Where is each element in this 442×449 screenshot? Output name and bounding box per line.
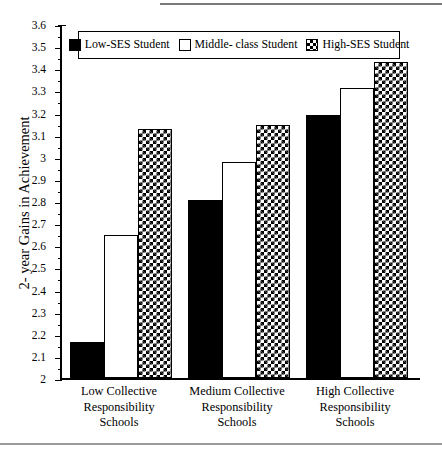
- bar-high-group-2: [256, 125, 290, 378]
- y-tick-label: 2.8: [32, 197, 46, 209]
- y-tick-major: 2.7: [55, 225, 62, 226]
- y-tick-major: 2.5: [55, 269, 62, 270]
- y-tick-minor: [58, 81, 62, 82]
- y-tick-minor: [58, 280, 62, 281]
- legend-item-3: High-SES Student: [306, 39, 409, 51]
- y-tick-minor: [58, 37, 62, 38]
- legend-item-1: Low-SES Student: [69, 39, 170, 51]
- page-rule-bottom: [0, 443, 442, 445]
- chart-legend: Low-SES StudentMiddle- class StudentHigh…: [78, 31, 400, 59]
- y-tick-minor: [58, 59, 62, 60]
- y-tick-minor: [58, 126, 62, 127]
- y-tick-major: 2.4: [55, 292, 62, 293]
- y-tick-minor: [58, 148, 62, 149]
- y-tick-minor: [58, 347, 62, 348]
- y-tick-major: 3.5: [55, 48, 62, 49]
- bar-high-group-3: [374, 62, 408, 378]
- plot-area: 3.63.53.43.33.23.132.92.82.72.62.52.42.3…: [60, 26, 418, 380]
- y-tick-major: 2: [55, 380, 62, 381]
- y-tick-label: 3.4: [32, 65, 46, 77]
- bar-high-group-1: [138, 129, 172, 378]
- y-tick-minor: [58, 192, 62, 193]
- white-outline-swatch: [179, 39, 191, 51]
- legend-label-1: Low-SES Student: [85, 39, 170, 51]
- y-tick-label: 2.6: [32, 242, 46, 254]
- y-tick-major: 3: [55, 159, 62, 160]
- y-tick-label: 2.4: [32, 286, 46, 298]
- y-tick-major: 2.8: [55, 203, 62, 204]
- legend-label-2: Middle- class Student: [195, 39, 298, 51]
- y-tick-major: 3.4: [55, 70, 62, 71]
- y-tick-label: 3.6: [32, 20, 46, 32]
- category-label-3: High Collective Responsibility Schools: [292, 384, 418, 431]
- bar-low-group-2: [188, 200, 222, 378]
- y-tick-minor: [58, 214, 62, 215]
- page-rule-top: [160, 3, 442, 5]
- y-tick-major: 2.9: [55, 181, 62, 182]
- y-tick-minor: [58, 103, 62, 104]
- y-tick-label: 2: [40, 374, 46, 386]
- y-tick-major: 3.1: [55, 137, 62, 138]
- category-label-2: Medium Collective Responsibility Schools: [174, 384, 300, 431]
- y-tick-major: 2.6: [55, 247, 62, 248]
- y-tick-minor: [58, 258, 62, 259]
- bar-chart-figure: 2- year Gains in Achievement 3.63.53.43.…: [0, 0, 442, 449]
- bar-middle-group-3: [340, 88, 374, 378]
- y-tick-minor: [58, 325, 62, 326]
- y-tick-label: 3.3: [32, 87, 46, 99]
- legend-item-2: Middle- class Student: [179, 39, 298, 51]
- y-tick-major: 3.6: [55, 26, 62, 27]
- solid-black-swatch: [69, 39, 81, 51]
- y-tick-label: 2.2: [32, 330, 46, 342]
- y-tick-label: 3.2: [32, 109, 46, 121]
- y-tick-label: 2.9: [32, 175, 46, 187]
- bar-middle-group-1: [104, 235, 138, 378]
- y-tick-major: 3.3: [55, 92, 62, 93]
- bar-low-group-1: [70, 342, 104, 379]
- y-tick-label: 2.3: [32, 308, 46, 320]
- y-tick-label: 2.1: [32, 352, 46, 364]
- category-label-1: Low Collective Responsibility Schools: [56, 384, 182, 431]
- y-tick-major: 2.2: [55, 336, 62, 337]
- y-tick-major: 2.3: [55, 314, 62, 315]
- y-tick-label: 3.5: [32, 42, 46, 54]
- y-tick-minor: [58, 170, 62, 171]
- y-tick-major: 2.1: [55, 358, 62, 359]
- legend-label-3: High-SES Student: [322, 39, 409, 51]
- bar-low-group-3: [306, 115, 340, 378]
- y-tick-label: 3.1: [32, 131, 46, 143]
- y-tick-minor: [58, 236, 62, 237]
- checkered-swatch: [306, 39, 318, 51]
- y-tick-minor: [58, 369, 62, 370]
- y-tick-label: 2.5: [32, 264, 46, 276]
- bar-middle-group-2: [222, 162, 256, 378]
- y-tick-minor: [58, 303, 62, 304]
- y-axis-title-label: 2- year Gains in Achievement: [16, 116, 33, 289]
- y-tick-label: 3: [40, 153, 46, 165]
- y-tick-major: 3.2: [55, 115, 62, 116]
- y-tick-label: 2.7: [32, 219, 46, 231]
